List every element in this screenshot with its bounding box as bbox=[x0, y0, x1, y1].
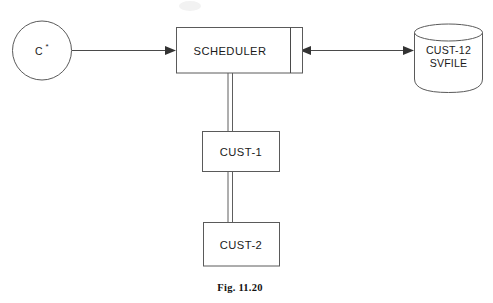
arrowhead-into-savefile bbox=[403, 46, 414, 55]
figure-caption: Fig. 11.20 bbox=[217, 282, 262, 293]
connector-source-to-scheduler bbox=[72, 46, 176, 55]
connector-scheduler-to-cust1 bbox=[228, 73, 233, 131]
arrowhead-into-scheduler bbox=[165, 46, 176, 55]
savefile-label-line-1: CUST-12 bbox=[426, 44, 471, 56]
scan-artifact bbox=[179, 1, 201, 11]
source-circle-label: C bbox=[35, 45, 43, 57]
savefile-cylinder-top bbox=[415, 24, 483, 41]
node-cust1[interactable]: CUST-1 bbox=[203, 132, 280, 172]
savefile-label-line-2: SVFILE bbox=[430, 57, 468, 69]
node-savefile-cylinder[interactable]: CUST-12 SVFILE bbox=[415, 24, 483, 93]
node-scheduler[interactable]: SCHEDULER bbox=[177, 28, 303, 74]
source-circle-superscript: * bbox=[45, 42, 48, 51]
node-source-circle[interactable]: C * bbox=[13, 21, 72, 80]
figure-container: C * SCHEDULER CUST-12 SVFILE CUST-1 CUST… bbox=[0, 0, 493, 303]
node-cust2[interactable]: CUST-2 bbox=[204, 223, 280, 267]
diagram-canvas: C * SCHEDULER CUST-12 SVFILE CUST-1 CUST… bbox=[0, 0, 493, 303]
scheduler-label: SCHEDULER bbox=[193, 45, 266, 57]
cust1-label: CUST-1 bbox=[220, 146, 262, 158]
connector-scheduler-to-savefile bbox=[300, 46, 414, 55]
connector-cust1-to-cust2 bbox=[228, 171, 233, 222]
cust2-label: CUST-2 bbox=[220, 239, 262, 251]
